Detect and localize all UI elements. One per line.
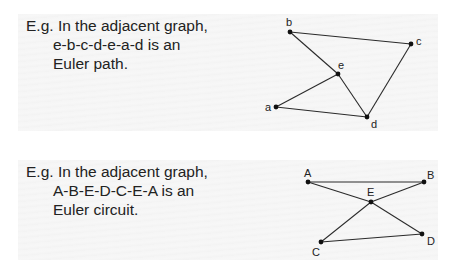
vertex-label-D: D: [427, 235, 435, 247]
vertex-label-B: B: [427, 169, 434, 181]
vertex-B: [422, 180, 427, 185]
edge-b-e: [290, 32, 338, 74]
vertex-label-a: a: [265, 101, 272, 113]
vertex-b: [288, 30, 293, 35]
edge-C-D: [321, 234, 422, 242]
vertex-e: [336, 72, 341, 77]
vertex-C: [319, 240, 324, 245]
edge-a-d: [276, 107, 367, 117]
vertex-label-A: A: [304, 167, 312, 179]
edge-B-E: [371, 182, 424, 202]
vertex-label-e: e: [338, 59, 344, 71]
vertex-a: [274, 105, 279, 110]
vertex-label-b: b: [286, 16, 292, 28]
edge-e-d: [338, 74, 367, 117]
vertex-A: [306, 180, 311, 185]
edge-E-D: [371, 202, 422, 234]
vertex-E: [369, 200, 374, 205]
edge-b-c: [290, 32, 411, 44]
edge-e-a: [276, 74, 338, 107]
vertex-d: [365, 115, 370, 120]
euler-circuit-graph: ABECD: [304, 167, 435, 258]
vertex-label-c: c: [416, 35, 422, 47]
edge-c-d: [367, 44, 411, 117]
vertex-D: [420, 232, 425, 237]
vertex-label-C: C: [312, 246, 320, 258]
euler-path-graph: bcead: [265, 16, 422, 130]
graphs-canvas: bcead ABECD: [0, 0, 456, 266]
vertex-c: [409, 42, 414, 47]
edge-A-E: [308, 182, 371, 202]
vertex-label-d: d: [371, 118, 377, 130]
vertex-label-E: E: [367, 186, 374, 198]
edge-E-C: [321, 202, 371, 242]
